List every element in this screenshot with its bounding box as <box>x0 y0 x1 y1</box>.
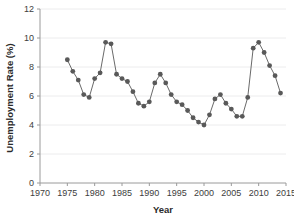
data-point <box>213 97 218 102</box>
data-point <box>152 81 157 86</box>
x-axis: 1970197519801985199019952000200520102015 <box>30 183 294 198</box>
data-point <box>218 92 223 97</box>
series-line <box>67 42 280 125</box>
data-point <box>125 79 130 84</box>
y-axis: 024681012 <box>24 4 40 188</box>
data-point <box>223 101 228 106</box>
x-tick-label: 2005 <box>221 188 241 198</box>
x-tick-label: 2010 <box>249 188 269 198</box>
x-tick-label: 1980 <box>85 188 105 198</box>
y-tick-label: 2 <box>29 149 34 159</box>
x-tick-label: 2015 <box>276 188 294 198</box>
data-point <box>240 114 245 119</box>
data-point <box>76 78 81 83</box>
y-tick-label: 0 <box>29 178 34 188</box>
data-point <box>207 112 212 117</box>
chart-svg: 024681012 197019751980198519901995200020… <box>0 0 294 218</box>
y-tick-label: 12 <box>24 4 34 14</box>
data-point <box>245 95 250 100</box>
data-point <box>196 120 201 125</box>
data-point <box>256 40 261 45</box>
x-tick-label: 1995 <box>167 188 187 198</box>
data-point <box>174 99 179 104</box>
data-point <box>81 92 86 97</box>
data-point <box>191 115 196 120</box>
data-point <box>185 108 190 113</box>
unemployment-rate-chart: 024681012 197019751980198519901995200020… <box>0 0 294 218</box>
data-point <box>278 91 283 96</box>
data-point <box>229 107 234 112</box>
data-point <box>87 95 92 100</box>
data-point <box>251 46 256 51</box>
data-point <box>262 50 267 55</box>
x-tick-label: 1975 <box>57 188 77 198</box>
data-point <box>120 76 125 81</box>
y-tick-label: 6 <box>29 91 34 101</box>
x-axis-title: Year <box>153 204 173 215</box>
y-tick-label: 10 <box>24 33 34 43</box>
data-point <box>202 123 207 128</box>
y-axis-title: Unemployment Rate (%) <box>4 43 15 152</box>
x-tick-label: 1990 <box>139 188 159 198</box>
x-tick-label: 1970 <box>30 188 50 198</box>
data-point <box>180 102 185 107</box>
data-point <box>163 81 168 86</box>
data-point <box>158 72 163 77</box>
data-point <box>114 72 119 77</box>
x-tick-label: 2000 <box>194 188 214 198</box>
data-point <box>131 89 136 94</box>
data-point <box>70 69 75 74</box>
series-line-group <box>67 42 280 125</box>
y-tick-label: 4 <box>29 120 34 130</box>
data-point <box>65 57 70 62</box>
data-point <box>273 73 278 78</box>
data-point <box>98 70 103 75</box>
data-point <box>136 101 141 106</box>
x-tick-label: 1985 <box>112 188 132 198</box>
data-point <box>141 104 146 109</box>
data-point <box>92 76 97 81</box>
series-points-group <box>65 40 283 127</box>
data-point <box>267 63 272 68</box>
data-point <box>234 114 239 119</box>
data-point <box>103 40 108 45</box>
data-point <box>147 99 152 104</box>
y-tick-label: 8 <box>29 62 34 72</box>
data-point <box>169 92 174 97</box>
data-point <box>109 41 114 46</box>
